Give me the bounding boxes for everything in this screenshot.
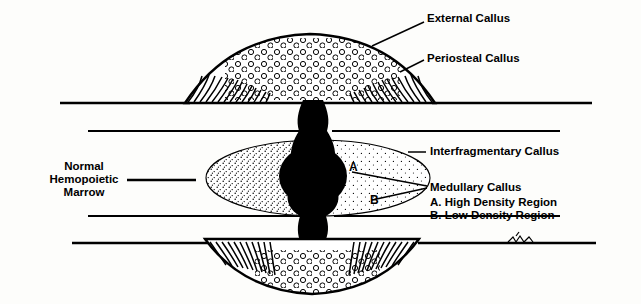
cortex-scribble-mark (508, 232, 533, 242)
label-medullary-callus: Medullary Callus (430, 181, 521, 194)
label-normal-marrow-line1: Normal (41, 160, 127, 173)
leader-external-callus (372, 22, 424, 46)
label-legend-a: A. High Density Region (430, 196, 557, 209)
label-normal-marrow-line2: Hemopoietic (41, 173, 127, 186)
diagram-canvas: External Callus Periosteal Callus Interf… (0, 0, 641, 304)
label-external-callus: External Callus (427, 12, 510, 25)
interfragmentary-callus (279, 100, 347, 244)
marker-b-low-density: B (370, 194, 379, 207)
external-callus (185, 34, 435, 103)
label-periosteal-callus: Periosteal Callus (427, 52, 520, 65)
label-normal-hemopoietic-marrow: Normal Hemopoietic Marrow (41, 160, 127, 199)
marker-a-high-density: A (349, 161, 358, 174)
label-legend-b: B. Low Density Region (430, 209, 555, 222)
label-interfragmentary-callus: Interfragmentary Callus (430, 145, 559, 158)
label-normal-marrow-line3: Marrow (41, 186, 127, 199)
high-density-region (279, 146, 347, 206)
